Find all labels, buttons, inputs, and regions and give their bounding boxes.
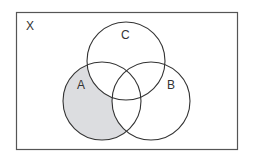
set-label-a: A	[77, 78, 85, 92]
set-label-b: B	[167, 78, 175, 92]
universe-label: X	[26, 19, 34, 33]
venn-diagram: X C A B	[0, 0, 254, 156]
set-label-c: C	[121, 28, 130, 42]
